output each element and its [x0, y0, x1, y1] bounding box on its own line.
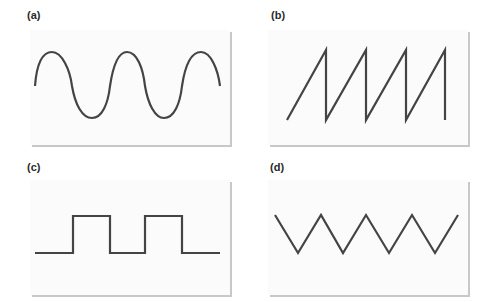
waveforms — [0, 0, 487, 302]
sine-wave — [35, 52, 220, 118]
square-wave — [35, 216, 220, 253]
triangle-wave — [275, 215, 458, 253]
sawtooth-wave — [287, 50, 445, 120]
